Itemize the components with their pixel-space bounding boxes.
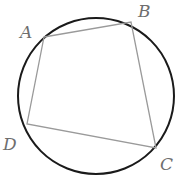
vertex-label-b: B [137,1,151,21]
vertex-label-d: D [2,134,17,154]
circumscribed-circle [18,18,174,174]
vertex-label-c: C [160,154,173,174]
quadrilateral-abcd [27,22,156,148]
cyclic-quadrilateral-diagram: A B C D [0,0,188,180]
vertex-label-a: A [18,22,32,42]
